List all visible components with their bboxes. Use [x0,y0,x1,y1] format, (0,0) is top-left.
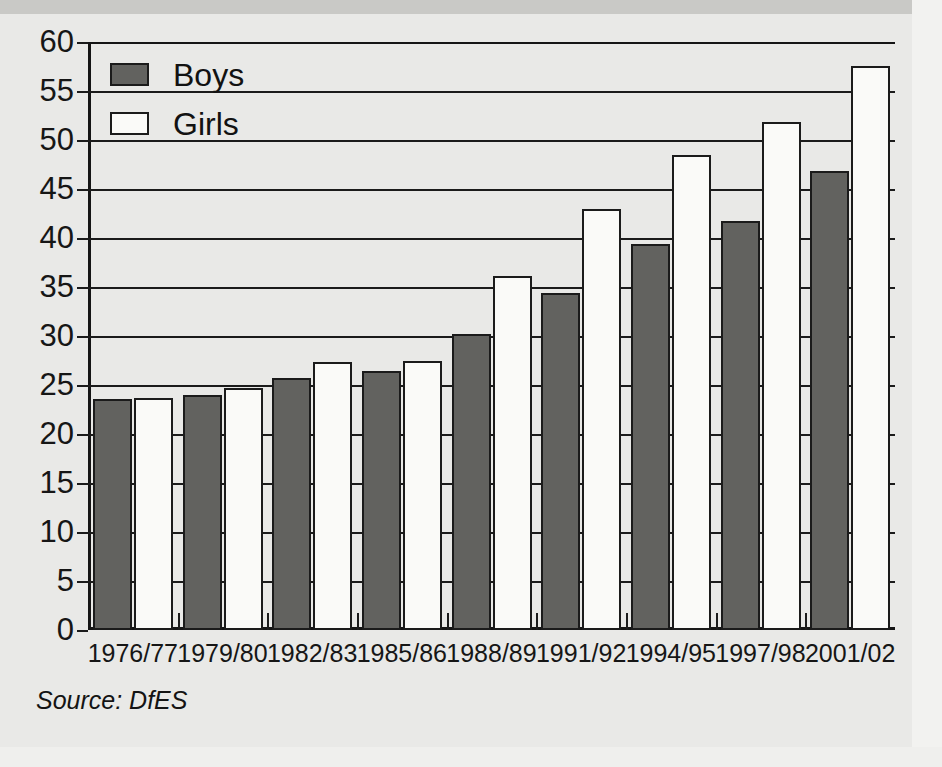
y-tick-20 [77,434,88,436]
scan-artifact-top-band [0,0,942,14]
y-axis-label-0: 0 [57,612,74,648]
x-axis-label-1997-98: 1997/98 [715,639,805,668]
x-tick-1988-89 [447,613,449,630]
y-tick-15 [77,483,88,485]
y-tick-45 [77,189,88,191]
y-axis-label-35: 35 [40,269,74,305]
x-axis-label-1982-83: 1982/83 [267,639,357,668]
chart-legend: Boys Girls [110,50,244,148]
bar-boys-1979-80 [183,395,222,630]
x-axis-label-1994-95: 1994/95 [626,639,716,668]
bar-boys-1994-95 [631,244,670,630]
bar-chart: 051015202530354045505560 1976/771979/801… [88,42,895,630]
girls-swatch-icon [110,112,149,135]
y-tick-0 [77,630,88,632]
bar-boys-1997-98 [721,221,760,630]
y-tick-25 [77,385,88,387]
x-axis-label-1988-89: 1988/89 [446,639,536,668]
legend-label-boys: Boys [173,59,244,91]
x-tick-1997-98 [716,613,718,630]
bar-girls-1988-89 [493,276,532,630]
bar-boys-1985-86 [362,371,401,630]
x-tick-1985-86 [357,613,359,630]
x-axis-label-1979-80: 1979/80 [177,639,267,668]
bar-boys-1988-89 [452,334,491,630]
y-tick-5 [77,581,88,583]
x-tick-2001-02 [805,613,807,630]
y-axis-label-5: 5 [57,563,74,599]
bar-girls-1991-92 [582,209,621,630]
x-axis-label-1976-77: 1976/77 [88,639,178,668]
y-tick-55 [77,91,88,93]
y-axis-label-55: 55 [40,73,74,109]
bar-boys-1991-92 [541,293,580,630]
bar-girls-2001-02 [851,66,890,630]
boys-swatch-icon [110,63,149,86]
y-axis-label-45: 45 [40,171,74,207]
x-axis-label-2001-02: 2001/02 [805,639,895,668]
y-axis-label-20: 20 [40,416,74,452]
y-tick-40 [77,238,88,240]
bar-girls-1976-77 [134,398,173,630]
x-tick-1979-80 [178,613,180,630]
x-axis-label-1991-92: 1991/92 [536,639,626,668]
scan-artifact-right-margin [912,0,942,767]
bar-girls-1979-80 [224,388,263,630]
source-note: Source: DfES [36,686,187,715]
legend-item-boys: Boys [110,50,244,99]
x-tick-1982-83 [267,613,269,630]
legend-label-girls: Girls [173,108,239,140]
y-axis-label-60: 60 [40,24,74,60]
y-tick-50 [77,140,88,142]
y-axis-label-25: 25 [40,367,74,403]
bar-girls-1985-86 [403,361,442,631]
bar-girls-1994-95 [672,155,711,630]
x-tick-1994-95 [626,613,628,630]
bar-girls-1997-98 [762,122,801,630]
y-axis-label-15: 15 [40,465,74,501]
y-tick-35 [77,287,88,289]
y-axis-label-50: 50 [40,122,74,158]
y-axis-label-30: 30 [40,318,74,354]
y-tick-30 [77,336,88,338]
x-tick-1991-92 [536,613,538,630]
bar-boys-1982-83 [272,378,311,630]
chart-page: 051015202530354045505560 1976/771979/801… [0,0,942,767]
bar-girls-1982-83 [313,362,352,630]
legend-item-girls: Girls [110,99,244,148]
y-axis-label-10: 10 [40,514,74,550]
y-tick-60 [77,42,88,44]
y-tick-10 [77,532,88,534]
y-axis-label-40: 40 [40,220,74,256]
x-axis-label-1985-86: 1985/86 [357,639,447,668]
bar-boys-1976-77 [93,399,132,630]
bar-boys-2001-02 [810,171,849,630]
scan-artifact-bottom-margin [0,747,942,767]
